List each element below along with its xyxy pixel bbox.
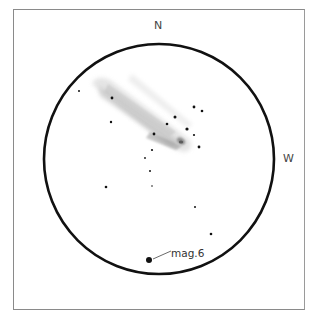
star (194, 206, 196, 208)
star (151, 185, 153, 187)
star (166, 123, 169, 126)
magnitude-label: mag.6 (171, 247, 204, 259)
field-of-view-circle (44, 44, 274, 274)
star (185, 127, 188, 130)
star (105, 186, 108, 189)
compass-north-label: N (154, 19, 162, 32)
star (174, 116, 177, 119)
star (193, 134, 195, 136)
star (198, 146, 201, 149)
eyepiece-sketch (0, 0, 316, 320)
compass-west-label: W (283, 152, 294, 165)
star-mag6 (146, 257, 152, 263)
star (153, 133, 156, 136)
star (201, 110, 204, 113)
star (144, 157, 146, 159)
star (78, 90, 80, 92)
star (151, 149, 153, 151)
star (210, 233, 213, 236)
star (110, 121, 112, 123)
star (193, 106, 196, 109)
magnitude-leader-line (153, 251, 171, 259)
star (111, 97, 114, 100)
star (149, 170, 151, 172)
